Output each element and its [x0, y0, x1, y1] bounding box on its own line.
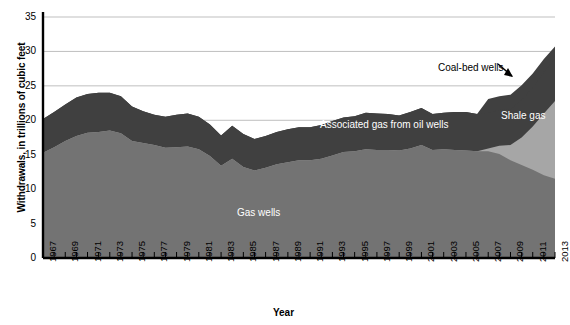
x-tick-label: 1989 — [292, 241, 303, 262]
x-tick-label: 2005 — [470, 241, 481, 262]
x-tick-label: 2007 — [492, 241, 503, 262]
x-tick-label: 1977 — [158, 241, 169, 262]
x-tick-label: 2013 — [559, 241, 570, 262]
x-tick-label: 1999 — [403, 241, 414, 262]
x-tick-label: 1979 — [181, 241, 192, 262]
series-areas — [43, 47, 555, 258]
x-tick-label: 1969 — [69, 241, 80, 262]
x-tick-label: 1967 — [47, 241, 58, 262]
y-tick-label: 30 — [8, 45, 36, 56]
x-tick-label: 1973 — [114, 241, 125, 262]
y-tick-label: 5 — [8, 218, 36, 229]
y-tick-label: 20 — [8, 114, 36, 125]
y-tick-label: 25 — [8, 80, 36, 91]
x-tick-label: 1985 — [247, 241, 258, 262]
x-tick-label: 2009 — [514, 241, 525, 262]
x-tick-label: 1981 — [203, 241, 214, 262]
x-tick-label: 1993 — [336, 241, 347, 262]
x-tick-label: 1995 — [359, 241, 370, 262]
y-axis-title: Withdrawals, in trillions of cubic feet — [16, 3, 27, 253]
chart-label: Coal-bed wells — [438, 62, 504, 73]
x-axis-title: Year — [0, 307, 567, 318]
x-tick-label: 1971 — [92, 241, 103, 262]
y-tick-label: 0 — [8, 252, 36, 263]
x-tick-label: 1983 — [225, 241, 236, 262]
x-tick-label: 1997 — [381, 241, 392, 262]
x-tick-label: 1987 — [270, 241, 281, 262]
x-tick-label: 2011 — [537, 242, 548, 262]
x-tick-label: 2003 — [448, 241, 459, 262]
y-tick-label: 35 — [8, 11, 36, 22]
x-tick-label: 1975 — [136, 241, 147, 262]
y-tick-label: 15 — [8, 149, 36, 160]
callout-arrowhead — [504, 68, 513, 77]
x-tick-label: 2001 — [425, 241, 436, 262]
x-tick-label: 1991 — [314, 241, 325, 262]
y-tick-label: 10 — [8, 183, 36, 194]
